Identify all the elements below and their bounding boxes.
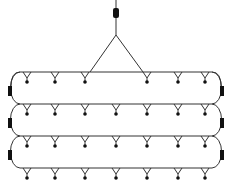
pendant-sling-r2-1 [51, 136, 59, 145]
pendant-sling-r1-2 [81, 104, 89, 113]
end-block-left-2 [8, 150, 12, 160]
pendant-hook-icon [145, 176, 149, 180]
pendant-sling-r1-5 [174, 104, 182, 113]
pendant-hook-icon [145, 80, 149, 84]
shackle-icon [113, 8, 119, 18]
pendant-sling-r3-4 [143, 168, 151, 177]
end-block-right-0 [220, 86, 224, 96]
pendant-hook-icon [145, 144, 149, 148]
pendant-hook-icon [83, 176, 87, 180]
pendant-hook-icon [83, 144, 87, 148]
pendant-sling-r1-3 [112, 104, 120, 113]
sling-leg-0 [90, 35, 116, 72]
pendant-hook-icon [176, 112, 180, 116]
sling-leg-1 [116, 35, 143, 72]
pendant-hook-icon [203, 176, 207, 180]
pendant-hook-icon [176, 144, 180, 148]
end-block-left-1 [8, 118, 12, 128]
pendant-sling-r1-4 [143, 104, 151, 113]
pendant-hook-icon [25, 112, 29, 116]
pendant-hook-icon [114, 112, 118, 116]
pendant-sling-r0-4 [174, 72, 182, 81]
pendant-sling-r3-6 [201, 168, 209, 177]
pendant-hook-icon [53, 144, 57, 148]
pendant-hook-icon [176, 176, 180, 180]
pendant-hook-icon [83, 112, 87, 116]
pendant-hook-icon [176, 80, 180, 84]
rig-lines [10, 0, 221, 177]
pendant-sling-r0-5 [201, 72, 209, 81]
pendant-hook-icon [114, 144, 118, 148]
pendant-hook-icon [25, 176, 29, 180]
pendant-hook-icon [53, 112, 57, 116]
pendant-hook-icon [25, 80, 29, 84]
pendant-sling-r2-3 [112, 136, 120, 145]
pendant-hook-icon [25, 144, 29, 148]
pendant-sling-r1-0 [23, 104, 31, 113]
pendant-sling-r2-0 [23, 136, 31, 145]
pendant-hook-icon [145, 112, 149, 116]
pendant-sling-r1-6 [201, 104, 209, 113]
pendant-sling-r3-2 [81, 168, 89, 177]
pendant-sling-r1-1 [51, 104, 59, 113]
pendant-sling-r2-4 [143, 136, 151, 145]
pendant-sling-r0-0 [23, 72, 31, 81]
end-block-right-2 [220, 150, 224, 160]
pendant-sling-r0-1 [51, 72, 59, 81]
pendant-sling-r2-5 [174, 136, 182, 145]
pendant-sling-r3-1 [51, 168, 59, 177]
pendant-sling-r0-2 [81, 72, 89, 81]
pendant-sling-r2-6 [201, 136, 209, 145]
pendant-sling-r3-3 [112, 168, 120, 177]
pendant-sling-r0-3 [143, 72, 151, 81]
pendant-sling-r2-2 [81, 136, 89, 145]
lifting-rig-diagram [0, 0, 227, 189]
pendant-hook-icon [53, 176, 57, 180]
pendant-hook-icon [53, 80, 57, 84]
end-block-right-1 [220, 118, 224, 128]
pendant-hook-icon [83, 80, 87, 84]
pendant-sling-r3-5 [174, 168, 182, 177]
pendant-hook-icon [203, 80, 207, 84]
pendant-hook-icon [203, 144, 207, 148]
pendant-hook-icon [114, 176, 118, 180]
pendant-hook-icon [203, 112, 207, 116]
end-block-left-0 [8, 86, 12, 96]
pendant-sling-r3-0 [23, 168, 31, 177]
